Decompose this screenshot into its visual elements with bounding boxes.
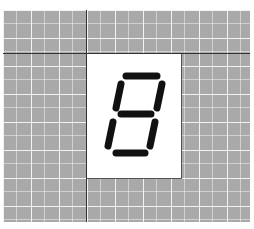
seven-segment-digit (0, 0, 254, 229)
segment-b (157, 84, 162, 108)
segment-c (150, 122, 155, 146)
segment-e (108, 122, 113, 146)
segment-f (116, 84, 121, 108)
